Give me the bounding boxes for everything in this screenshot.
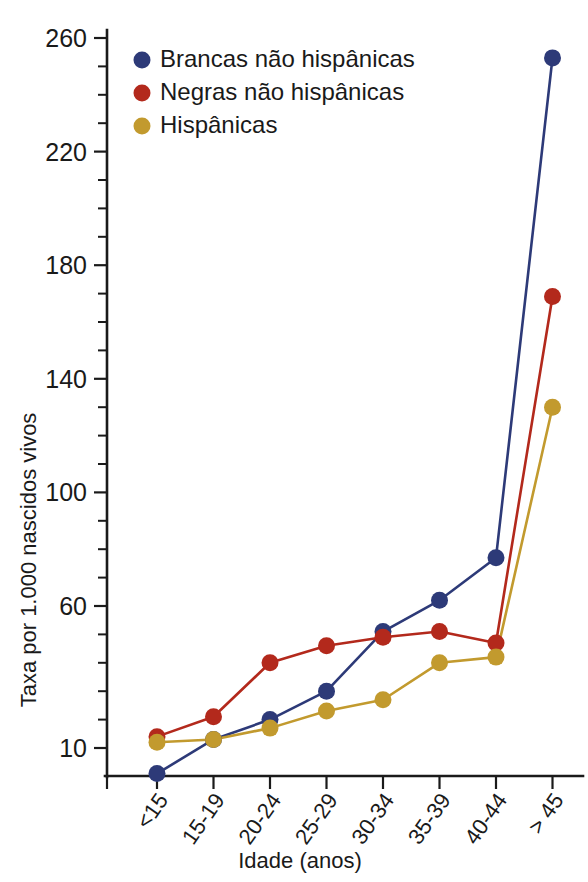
legend-swatch	[134, 52, 151, 69]
series-markers	[149, 49, 562, 782]
y-tick-label: 140	[45, 365, 87, 393]
legend-label: Hispânicas	[160, 111, 277, 138]
chart-container: 1060100140180220260 <1515-1920-2425-2930…	[0, 0, 588, 882]
x-tick-label: 15-19	[177, 789, 230, 849]
series-line	[157, 58, 553, 774]
data-point-marker	[205, 708, 222, 725]
line-chart: 1060100140180220260 <1515-1920-2425-2930…	[0, 0, 588, 882]
data-point-marker	[431, 592, 448, 609]
data-point-marker	[318, 637, 335, 654]
data-point-marker	[262, 720, 279, 737]
y-axis-tick-labels: 1060100140180220260	[45, 24, 87, 762]
chart-legend: Brancas não hispânicasNegras não hispâni…	[134, 45, 415, 138]
data-point-marker	[544, 399, 561, 416]
x-tick-label: 20-24	[233, 789, 286, 849]
series-line	[157, 407, 553, 742]
series-lines	[157, 58, 553, 774]
x-tick-label: <15	[131, 789, 173, 834]
y-tick-label: 60	[59, 592, 87, 620]
data-point-marker	[488, 649, 505, 666]
data-point-marker	[544, 288, 561, 305]
x-tick-label: > 45	[523, 789, 568, 839]
x-axis-title: Idade (anos)	[238, 848, 362, 873]
data-point-marker	[488, 549, 505, 566]
data-point-marker	[149, 765, 166, 782]
legend-swatch	[134, 118, 151, 135]
data-point-marker	[375, 691, 392, 708]
x-tick-label: 35-39	[403, 789, 456, 849]
legend-label: Brancas não hispânicas	[160, 45, 415, 72]
x-tick-label: 30-34	[346, 789, 399, 849]
data-point-marker	[431, 654, 448, 671]
data-point-marker	[431, 623, 448, 640]
y-axis-title: Taxa por 1.000 nascidos vivos	[16, 413, 41, 708]
data-point-marker	[149, 734, 166, 751]
y-axis-ticks	[94, 38, 107, 748]
data-point-marker	[544, 49, 561, 66]
legend-label: Negras não hispânicas	[160, 78, 404, 105]
x-axis-tick-labels: <1515-1920-2425-2930-3435-3940-44> 45	[131, 789, 568, 849]
series-line	[157, 296, 553, 736]
x-tick-label: 40-44	[459, 789, 512, 849]
legend-swatch	[134, 85, 151, 102]
y-tick-label: 180	[45, 251, 87, 279]
data-point-marker	[318, 703, 335, 720]
data-point-marker	[262, 654, 279, 671]
y-tick-label: 10	[59, 734, 87, 762]
y-tick-label: 100	[45, 478, 87, 506]
x-axis-ticks	[107, 776, 553, 789]
y-tick-label: 260	[45, 24, 87, 52]
x-tick-label: 25-29	[290, 789, 343, 849]
y-tick-label: 220	[45, 138, 87, 166]
data-point-marker	[205, 731, 222, 748]
data-point-marker	[375, 629, 392, 646]
data-point-marker	[318, 683, 335, 700]
